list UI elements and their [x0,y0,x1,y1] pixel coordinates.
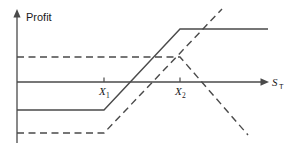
payoff-diagram-figure: Profit S T X 1 X 2 [0,0,296,148]
tick-label-x2-subscript: 2 [182,91,186,100]
x-axis-label-subscript: T [279,82,284,91]
payoff-chart-svg: Profit S T X 1 X 2 [0,0,296,148]
y-axis-label: Profit [26,11,52,23]
tick-label-x1-subscript: 1 [106,91,110,100]
x-axis-label: S [272,76,278,88]
